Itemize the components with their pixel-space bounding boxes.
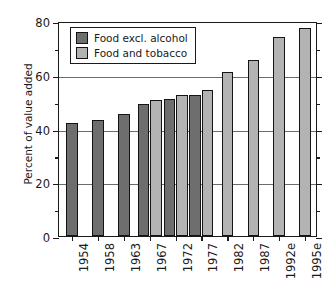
x-tick [150,236,151,241]
y-tick-major [53,131,59,132]
y-tick-major [53,77,59,78]
x-tick [279,236,280,241]
y-tick-major-right [316,77,322,78]
y-axis-title: Percent of value added [22,34,34,214]
y-tick-major [53,238,59,239]
y-tick-major-right [316,131,322,132]
x-tick-label: 1995e [310,243,324,279]
y-tick-major-right [316,184,322,185]
legend-swatch-icon [76,32,88,44]
x-tick [176,236,177,241]
bar [164,99,176,236]
x-tick-label: 1972 [181,243,195,272]
x-tick [124,236,125,241]
legend-item-food-excl-alcohol: Food excl. alcohol [76,31,188,45]
x-tick-label: 1992e [284,243,298,279]
bar [273,37,285,236]
bar [150,100,162,236]
y-tick-minor [55,211,59,212]
chart-legend: Food excl. alcohol Food and tobacco [70,27,196,64]
y-tick-major [53,23,59,24]
bar [248,60,260,236]
x-tick [253,236,254,241]
y-tick-label: 40 [35,124,50,138]
x-tick [305,236,306,241]
legend-item-food-and-tobacco: Food and tobacco [76,46,188,60]
y-tick-label: 80 [35,16,50,30]
bar [189,95,201,236]
x-tick [98,236,99,241]
bar-chart-figure: Percent of value added 020406080 Food ex… [0,0,333,293]
x-tick [227,236,228,241]
y-tick-major-right [316,238,322,239]
y-tick-minor-right [316,211,320,212]
y-tick-minor [55,104,59,105]
x-tick-label: 1958 [103,243,117,272]
y-tick-label: 20 [35,177,50,191]
bar [138,104,150,236]
x-tick-label: 1967 [155,243,169,272]
y-tick-label: 0 [43,231,50,245]
legend-label: Food and tobacco [94,48,187,59]
y-tick-label: 60 [35,70,50,84]
y-tick-minor [55,50,59,51]
bar [118,114,130,236]
y-tick-major-right [316,23,322,24]
y-tick-minor-right [316,157,320,158]
y-tick-minor-right [316,104,320,105]
y-tick-minor-right [316,50,320,51]
x-tick-label: 1982 [232,243,246,272]
legend-swatch-icon [76,47,88,59]
x-tick [72,236,73,241]
x-tick-label: 1963 [129,243,143,272]
bar [202,90,214,236]
x-tick [201,236,202,241]
y-tick-minor [55,157,59,158]
bar [92,120,104,236]
x-tick-label: 1977 [206,243,220,272]
bar [66,123,78,236]
x-tick-label: 1954 [77,243,91,272]
legend-label: Food excl. alcohol [94,33,188,44]
y-tick-major [53,184,59,185]
x-tick-label: 1987 [258,243,272,272]
bar [222,72,234,236]
bar [176,95,188,236]
bar [299,28,311,236]
